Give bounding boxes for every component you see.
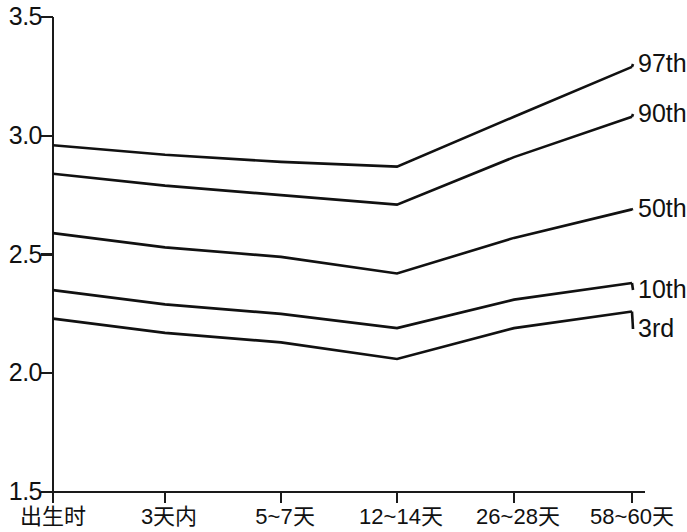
y-axis-label-2: 2.5 bbox=[9, 242, 42, 267]
axes-group bbox=[41, 17, 645, 503]
legend-item-10th: 10th bbox=[638, 277, 687, 302]
y-axis-ticks bbox=[41, 17, 53, 492]
x-axis-label-3: 12~14天 bbox=[359, 505, 443, 529]
y-axis-label-1: 3.0 bbox=[9, 123, 42, 148]
legend-item-3rd: 3rd bbox=[638, 316, 674, 341]
series-line-3rd bbox=[53, 312, 632, 360]
legend-leader-97th bbox=[632, 64, 633, 67]
legend-item-97th: 97th bbox=[638, 51, 687, 76]
legend-item-50th: 50th bbox=[638, 196, 687, 221]
legend-leader-10th bbox=[632, 283, 633, 290]
x-axis-label-0: 出生时 bbox=[20, 505, 86, 529]
legend-leader-3rd bbox=[632, 312, 633, 330]
series-line-10th bbox=[53, 283, 632, 328]
series-line-90th bbox=[53, 117, 632, 205]
y-axis-label-4: 1.5 bbox=[9, 479, 42, 504]
legend-leader-lines bbox=[632, 64, 633, 329]
x-axis-ticks bbox=[53, 492, 632, 503]
series-line-97th bbox=[53, 67, 632, 167]
y-axis-label-3: 2.0 bbox=[9, 360, 42, 385]
series-line-50th bbox=[53, 209, 632, 273]
x-axis-label-4: 26~28天 bbox=[476, 505, 560, 529]
legend-leader-90th bbox=[632, 114, 633, 117]
legend-item-90th: 90th bbox=[638, 101, 687, 126]
x-axis-label-1: 3天内 bbox=[141, 505, 197, 529]
y-axis-label-0: 3.5 bbox=[9, 4, 42, 29]
x-axis-label-2: 5~7天 bbox=[255, 505, 314, 529]
x-axis-label-5: 58~60天 bbox=[590, 505, 674, 529]
series-group bbox=[53, 67, 632, 359]
